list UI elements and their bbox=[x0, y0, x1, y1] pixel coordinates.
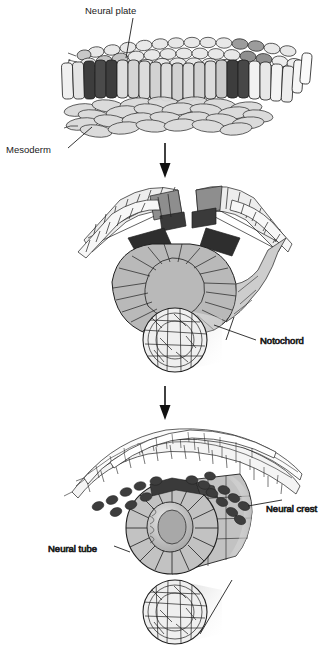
neural-tube-label: Neural tube bbox=[48, 543, 97, 554]
notochord-cylinder-stage3 bbox=[143, 580, 232, 644]
neurulation-diagram: Neural plate bbox=[0, 0, 328, 646]
diagram-canvas: Neural plate bbox=[0, 0, 328, 646]
neural-plate-label: Neural plate bbox=[85, 5, 136, 16]
notochord-label: Notochord bbox=[260, 335, 304, 346]
neural-crest-label: Neural crest bbox=[266, 503, 318, 514]
mesoderm-label: Mesoderm bbox=[6, 144, 51, 155]
neural-tube-cross-section bbox=[126, 482, 218, 574]
